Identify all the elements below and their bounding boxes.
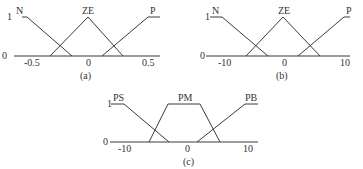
set-label-pb: PB (245, 92, 258, 103)
tick-pos: 10 (340, 57, 350, 68)
mf-p (298, 17, 350, 56)
y-zero-label: 0 (103, 136, 108, 147)
mf-n (210, 17, 268, 56)
set-label-n: N (16, 5, 23, 16)
set-label-p: P (150, 5, 156, 16)
mf-ze (50, 17, 123, 56)
mf-ps (111, 104, 169, 142)
membership-function-figure: 1 0 N ZE P -0.5 0 0.5 (a) 1 0 N ZE P -10… (0, 0, 363, 169)
set-label-ze: ZE (278, 5, 290, 16)
tick-zero: 0 (86, 57, 91, 68)
set-label-pm: PM (178, 92, 193, 103)
diagram-b: 1 0 N ZE P -10 0 10 (b) (200, 5, 352, 82)
set-label-ze: ZE (82, 5, 94, 16)
tick-zero: 0 (185, 143, 190, 154)
mf-p (102, 17, 160, 56)
mf-pm (149, 104, 220, 142)
diagram-a: 1 0 N ZE P -0.5 0 0.5 (a) (2, 5, 160, 82)
set-label-n: N (212, 5, 219, 16)
tick-pos: 0.5 (142, 57, 155, 68)
mf-ze (246, 17, 320, 56)
set-label-p: P (346, 5, 352, 16)
caption: (b) (276, 70, 288, 82)
caption: (c) (183, 156, 194, 168)
tick-pos: 10 (243, 143, 253, 154)
tick-neg: -10 (118, 143, 131, 154)
mf-pb (197, 104, 258, 142)
tick-neg: -10 (218, 57, 231, 68)
y-one-label: 1 (205, 11, 210, 22)
mf-n (22, 17, 72, 56)
caption: (a) (80, 70, 91, 82)
y-one-label: 1 (7, 11, 12, 22)
diagram-c: 1 0 PS PM PB -10 0 10 (c) (103, 92, 258, 168)
set-label-ps: PS (113, 92, 124, 103)
tick-neg: -0.5 (24, 57, 40, 68)
y-zero-label: 0 (200, 50, 205, 61)
y-zero-label: 0 (2, 50, 7, 61)
tick-zero: 0 (282, 57, 287, 68)
y-one-label: 1 (107, 98, 112, 109)
